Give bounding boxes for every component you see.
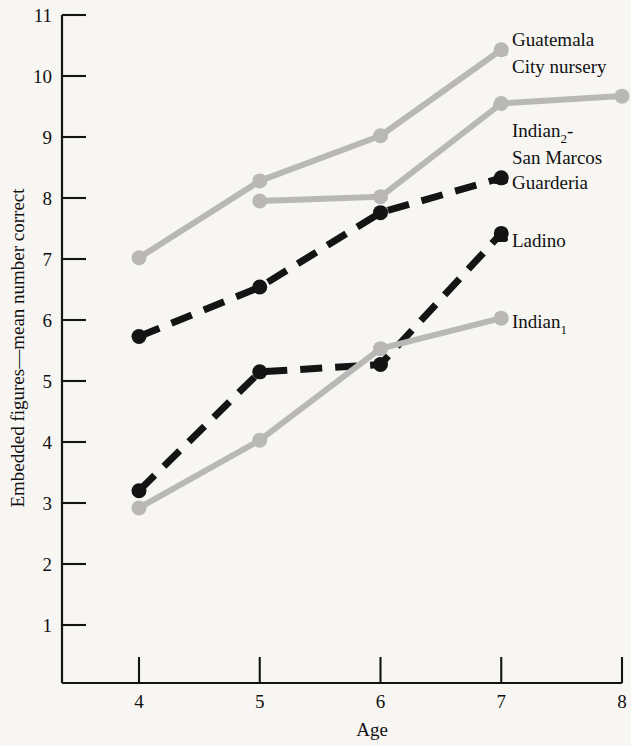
series-guatemala-city-nursery [132,42,509,265]
data-point [132,500,147,515]
y-axis-tick-labels: 1234567891011 [33,5,53,636]
data-point [252,173,267,188]
data-point [132,483,147,498]
data-point [132,329,147,344]
data-point [373,341,388,356]
x-axis-title: Age [356,719,388,740]
y-tick-label-6: 6 [43,310,53,331]
label-indian2-word: Indian [512,120,561,141]
label-ladino: Ladino [512,230,566,251]
y-tick-label-7: 7 [43,249,53,270]
embedded-figures-line-chart: 1234567891011 45678 Embedded figures—mea… [0,0,631,746]
data-point [252,194,267,209]
y-tick-label-5: 5 [43,371,53,392]
series-line [139,318,501,508]
label-indian2-san-marcos-line1: Indian2- [512,120,573,146]
chart-canvas: 1234567891011 45678 Embedded figures—mea… [0,0,631,746]
x-tick-label-4: 4 [134,691,144,712]
series-line [139,233,501,490]
series-ladino [132,226,509,498]
data-point [373,128,388,143]
data-point [615,89,630,104]
y-axis-title: Embedded figures—mean number correct [7,188,28,508]
data-point [373,357,388,372]
data-point [373,189,388,204]
y-tick-label-1: 1 [43,615,53,636]
x-tick-label-6: 6 [376,691,386,712]
y-tick-label-9: 9 [43,127,53,148]
y-tick-label-2: 2 [43,554,53,575]
label-indian2-dash: - [567,120,573,141]
x-tick-label-8: 8 [617,691,627,712]
axis-lines [62,15,622,683]
label-indian1: Indian1 [512,311,567,337]
label-guatemala-city-nursery-line1: Guatemala [512,29,595,50]
x-tick-label-7: 7 [497,691,507,712]
y-tick-label-11: 11 [34,5,52,26]
label-indian2-san-marcos-line2: San Marcos [512,147,602,168]
label-guarderia: Guarderia [512,172,589,193]
y-tick-label-10: 10 [33,66,52,87]
label-indian1-word: Indian [512,311,561,332]
data-point [252,433,267,448]
y-tick-label-8: 8 [43,188,53,209]
x-tick-label-5: 5 [255,691,265,712]
x-axis-ticks [139,657,622,683]
y-axis-ticks [62,15,86,625]
data-point [252,280,267,295]
series-line [139,50,501,258]
label-guatemala-city-nursery-line2: City nursery [512,56,607,77]
label-indian1-subscript: 1 [561,322,568,337]
y-tick-label-3: 3 [43,493,53,514]
data-point [132,250,147,265]
x-axis-tick-labels: 45678 [134,691,627,712]
series-layer [132,42,630,515]
data-point [252,364,267,379]
y-tick-label-4: 4 [43,432,53,453]
series-indian1 [132,311,509,516]
data-point [373,205,388,220]
series-inline-labels: Guatemala City nursery Indian2- San Marc… [512,29,607,337]
